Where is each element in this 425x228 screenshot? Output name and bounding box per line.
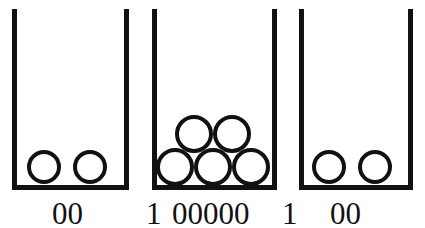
bin-2-ball-3 (232, 148, 270, 186)
bin-1-ball-1 (27, 150, 61, 184)
bin-2-ball-2 (194, 148, 232, 186)
separator-2: 1 (282, 198, 298, 228)
bin-2-ball-4 (175, 115, 213, 153)
caption-bin-1: 00 (52, 198, 83, 228)
caption-bin-2: 00000 (172, 198, 250, 228)
separator-1: 1 (146, 198, 162, 228)
bin-2-ball-5 (213, 115, 251, 153)
bin-2-ball-1 (156, 148, 194, 186)
bin-3-ball-1 (312, 150, 346, 184)
bin-1-ball-2 (73, 150, 107, 184)
caption-bin-3: 00 (330, 198, 361, 228)
bins-and-balls-figure: 00 1 00000 1 00 (0, 0, 425, 228)
bin-3-ball-2 (358, 150, 392, 184)
